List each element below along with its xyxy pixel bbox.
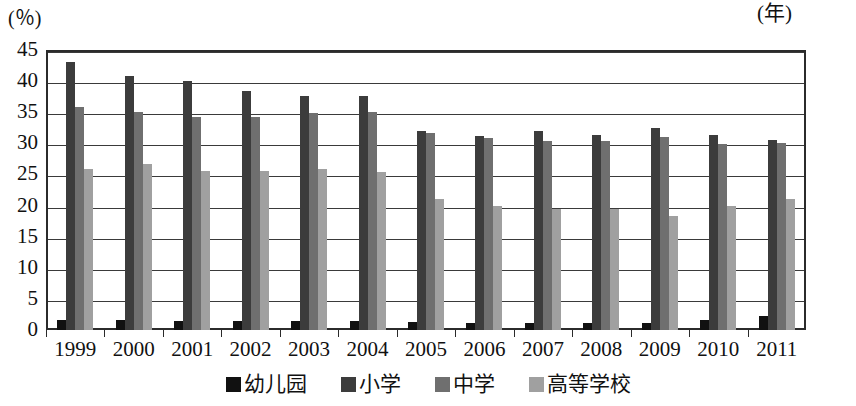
x-axis-tick-label: 2000	[104, 336, 162, 362]
legend-swatch-icon	[435, 377, 450, 392]
legend-item: 幼儿园	[226, 372, 307, 396]
bar	[466, 323, 475, 330]
y-axis-tick-label: 20	[0, 195, 44, 216]
bar	[75, 107, 84, 330]
chart-legend: 幼儿园小学中学高等学校	[0, 372, 856, 396]
bar-group	[163, 50, 221, 330]
bar	[408, 322, 417, 330]
bar	[318, 169, 327, 330]
bar	[57, 320, 66, 330]
bar-group	[572, 50, 630, 330]
x-axis-tick-label: 2003	[280, 336, 338, 362]
legend-swatch-icon	[529, 377, 544, 392]
legend-label: 高等学校	[547, 372, 631, 396]
bar	[116, 320, 125, 330]
bar	[183, 81, 192, 330]
x-axis-tick-label: 2001	[163, 336, 221, 362]
legend-swatch-icon	[226, 377, 241, 392]
bar	[291, 321, 300, 330]
bar	[174, 321, 183, 330]
legend-swatch-icon	[341, 377, 356, 392]
x-axis-unit-label: (年)	[757, 0, 792, 26]
bar-group	[631, 50, 689, 330]
x-axis-tick-label: 2002	[221, 336, 279, 362]
x-axis-tick-label: 2008	[572, 336, 630, 362]
bar	[350, 321, 359, 330]
bar-group	[221, 50, 279, 330]
legend-label: 幼儿园	[244, 372, 307, 396]
bar	[233, 321, 242, 330]
bar	[475, 136, 484, 330]
bar	[417, 131, 426, 330]
y-axis-tick-label: 40	[0, 70, 44, 91]
bar	[484, 138, 493, 330]
bar	[300, 96, 309, 330]
bar-group	[689, 50, 747, 330]
bar	[125, 76, 134, 330]
bar	[192, 117, 201, 330]
bar	[426, 133, 435, 330]
legend-item: 小学	[341, 372, 401, 396]
x-axis-tick-label: 2006	[455, 336, 513, 362]
y-axis-unit-label: (％)	[8, 2, 41, 31]
x-axis-tick-label: 2007	[514, 336, 572, 362]
bar	[777, 143, 786, 330]
bar-group	[397, 50, 455, 330]
bar	[201, 171, 210, 330]
bar	[552, 209, 561, 330]
bar-group	[104, 50, 162, 330]
legend-label: 中学	[453, 372, 495, 396]
x-axis-labels: 1999200020012002200320042005200620072008…	[46, 336, 846, 366]
bar-group	[338, 50, 396, 330]
y-axis-tick-label: 0	[0, 319, 44, 340]
legend-item: 中学	[435, 372, 495, 396]
bar	[651, 128, 660, 330]
bar-group	[46, 50, 104, 330]
bar-chart: (％) 199920002001200220032004200520062007…	[0, 0, 856, 406]
bar	[583, 323, 592, 330]
bar	[525, 323, 534, 330]
bar-group	[280, 50, 338, 330]
x-axis-tick-label: 2011	[748, 336, 806, 362]
bar-group	[455, 50, 513, 330]
bar	[242, 91, 251, 330]
bar	[610, 209, 619, 330]
x-axis-tick-label: 2004	[338, 336, 396, 362]
y-axis-tick-label: 45	[0, 39, 44, 60]
bar	[251, 117, 260, 330]
bar	[359, 96, 368, 330]
bar	[759, 316, 768, 330]
bar	[669, 216, 678, 330]
bars-layer	[46, 50, 806, 330]
bar	[534, 131, 543, 330]
bar	[786, 199, 795, 330]
bar	[377, 172, 386, 330]
bar	[134, 112, 143, 330]
y-axis-tick-label: 30	[0, 132, 44, 153]
x-axis-tick-label: 2005	[397, 336, 455, 362]
legend-item: 高等学校	[529, 372, 631, 396]
bar	[309, 113, 318, 330]
bar	[660, 137, 669, 330]
bar	[543, 141, 552, 330]
y-axis-tick-label: 35	[0, 101, 44, 122]
bar	[84, 169, 93, 330]
bar	[642, 323, 651, 330]
x-axis-tick-label: 1999	[46, 336, 104, 362]
bar	[493, 206, 502, 330]
bar	[700, 320, 709, 330]
bar	[368, 112, 377, 330]
y-axis-tick-label: 15	[0, 226, 44, 247]
bar	[768, 140, 777, 330]
bar	[718, 144, 727, 330]
bar	[727, 206, 736, 330]
y-axis-tick-label: 10	[0, 257, 44, 278]
y-axis-tick-label: 25	[0, 163, 44, 184]
legend-label: 小学	[359, 372, 401, 396]
bar	[66, 62, 75, 330]
bar	[601, 141, 610, 330]
bar	[435, 199, 444, 330]
bar	[260, 171, 269, 330]
bar-group	[748, 50, 806, 330]
bar-group	[514, 50, 572, 330]
